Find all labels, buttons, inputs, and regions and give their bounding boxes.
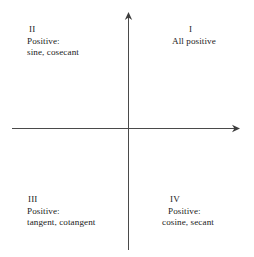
quadrant-functions-iii: tangent, cotangent <box>27 217 95 228</box>
quadrant-label-i: I All positive <box>169 24 216 47</box>
quadrant-functions-ii: sine, cosecant <box>27 47 79 58</box>
quadrant-heading-iv: Positive: <box>168 206 214 217</box>
quadrant-sign-diagram: II Positive: sine, cosecant I All positi… <box>0 0 254 257</box>
quadrant-numeral-ii: II <box>29 24 79 36</box>
quadrant-label-ii: II Positive: sine, cosecant <box>27 24 79 58</box>
quadrant-heading-iii: Positive: <box>27 206 95 217</box>
quadrant-label-iii: III Positive: tangent, cotangent <box>27 194 95 228</box>
quadrant-heading-ii: Positive: <box>27 36 79 47</box>
quadrant-numeral-iii: III <box>28 194 95 206</box>
quadrant-numeral-iv: IV <box>170 194 214 206</box>
quadrant-functions-iv: cosine, secant <box>162 217 214 228</box>
quadrant-heading-i: All positive <box>172 36 216 47</box>
quadrant-numeral-i: I <box>189 24 216 36</box>
quadrant-label-iv: IV Positive: cosine, secant <box>162 194 214 228</box>
